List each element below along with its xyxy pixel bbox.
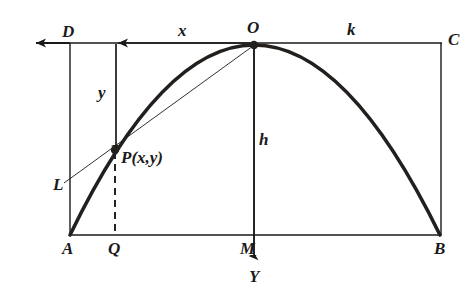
label-point-O: O <box>247 19 259 36</box>
parabola-diagram: D C O A B Q M L P(x,y) Y x k y h <box>0 0 476 299</box>
label-point-D: D <box>62 23 74 40</box>
label-dimension-y: y <box>98 84 106 101</box>
label-point-P: P(x,y) <box>121 149 163 166</box>
label-point-L: L <box>53 176 63 193</box>
label-point-M: M <box>240 240 255 257</box>
label-point-Q: Q <box>108 240 120 257</box>
point-marker-O <box>250 41 258 49</box>
label-point-A: A <box>62 240 73 257</box>
label-dimension-x: x <box>178 22 187 39</box>
label-dimension-h: h <box>259 131 268 148</box>
parabola-curve <box>70 45 440 235</box>
label-dimension-k: k <box>347 21 356 38</box>
label-point-B: B <box>434 240 445 257</box>
point-marker-P <box>111 146 119 154</box>
label-point-C: C <box>448 31 459 48</box>
label-axis-Y: Y <box>249 268 259 285</box>
